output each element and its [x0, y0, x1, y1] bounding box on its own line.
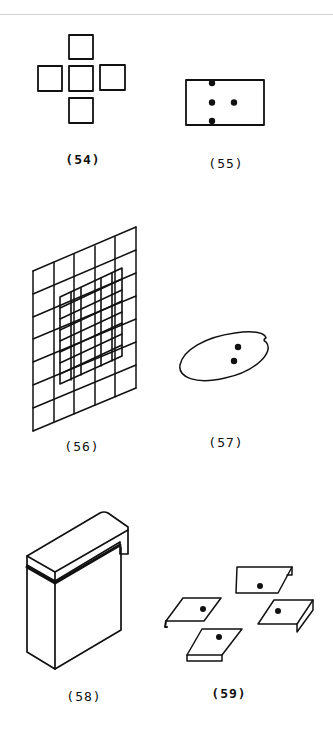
- figure-59-label: (59): [211, 686, 246, 701]
- figure-56-label: (56): [64, 439, 99, 454]
- figure-56-grid: [33, 227, 136, 431]
- figure-58-label: (58): [66, 689, 101, 704]
- figure-canvas: [0, 0, 333, 738]
- figure-57-ellipse: [180, 332, 268, 381]
- figure-59-tabs: [165, 567, 313, 661]
- figure-57-label: (57): [208, 435, 243, 450]
- figure-54-label: (54): [65, 152, 100, 167]
- figure-55-rectangle-dots: [186, 80, 264, 125]
- figure-54-cross-squares: [38, 35, 125, 123]
- figure-55-label: (55): [208, 156, 243, 171]
- figure-58-box: [27, 512, 128, 669]
